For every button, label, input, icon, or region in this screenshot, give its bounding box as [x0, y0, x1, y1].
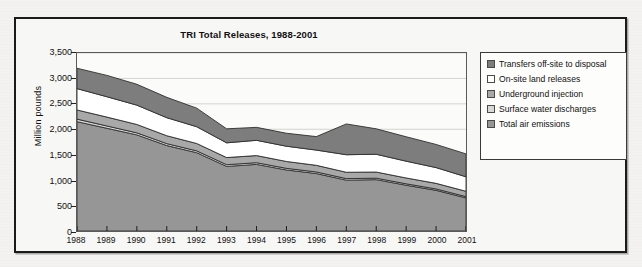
x-axis-tick-labels: 1988198919901991199219931994199519961997… — [76, 235, 467, 251]
figure-frame: TRI Total Releases, 1988-2001 Million po… — [14, 17, 627, 253]
legend-item-label: On-site land releases — [499, 74, 580, 84]
y-tick-mark — [71, 232, 76, 233]
x-tick-label: 2000 — [427, 235, 446, 245]
x-tick-label: 2001 — [458, 235, 477, 245]
stacked-area-plot — [77, 53, 466, 231]
legend-swatch-icon — [487, 120, 495, 128]
legend-swatch-icon — [487, 60, 495, 68]
chart-legend: Transfers off-site to disposalOn-site la… — [480, 52, 627, 160]
y-axis-tick-marks — [16, 52, 76, 232]
x-tick-label: 1990 — [127, 235, 146, 245]
legend-item[interactable]: Transfers off-site to disposal — [487, 59, 621, 69]
plot-area — [76, 52, 467, 232]
x-tick-label: 1991 — [157, 235, 176, 245]
x-tick-label: 1997 — [337, 235, 356, 245]
legend-item[interactable]: Underground injection — [487, 89, 621, 99]
chart-title: TRI Total Releases, 1988-2001 — [16, 29, 482, 40]
legend-item-label: Surface water discharges — [499, 104, 596, 114]
page-background: TRI Total Releases, 1988-2001 Million po… — [0, 0, 642, 267]
legend-item-label: Underground injection — [499, 89, 583, 99]
legend-item[interactable]: Total air emissions — [487, 119, 621, 129]
legend-swatch-icon — [487, 105, 495, 113]
legend-item-label: Transfers off-site to disposal — [499, 59, 606, 69]
x-tick-label: 1994 — [247, 235, 266, 245]
legend-item-label: Total air emissions — [499, 119, 570, 129]
x-tick-label: 1989 — [97, 235, 116, 245]
x-tick-label: 1999 — [397, 235, 416, 245]
legend-item[interactable]: Surface water discharges — [487, 104, 621, 114]
x-tick-label: 1988 — [67, 235, 86, 245]
x-tick-label: 1995 — [277, 235, 296, 245]
x-tick-label: 1998 — [367, 235, 386, 245]
x-tick-label: 1996 — [307, 235, 326, 245]
legend-swatch-icon — [487, 75, 495, 83]
x-tick-label: 1993 — [217, 235, 236, 245]
legend-item[interactable]: On-site land releases — [487, 74, 621, 84]
legend-swatch-icon — [487, 90, 495, 98]
x-tick-label: 1992 — [187, 235, 206, 245]
